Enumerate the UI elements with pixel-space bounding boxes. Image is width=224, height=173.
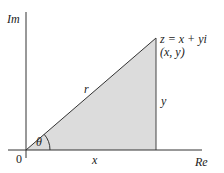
angle-theta-label: θ — [36, 136, 42, 148]
hypotenuse-label: r — [84, 83, 89, 95]
origin-label: 0 — [16, 153, 22, 165]
opposite-label: y — [161, 95, 166, 107]
adjacent-label: x — [92, 154, 97, 166]
complex-plane-diagram — [0, 0, 224, 173]
im-axis-label: Im — [7, 13, 20, 25]
point-coordinates-label: (x, y) — [160, 46, 185, 58]
point-equation-label: z = x + yi — [160, 33, 207, 45]
re-axis-label: Re — [195, 156, 208, 168]
